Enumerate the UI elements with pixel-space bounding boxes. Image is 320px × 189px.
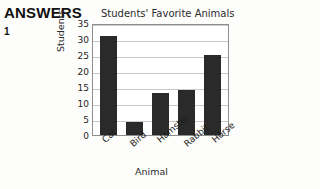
x-axis-label: Animal <box>135 166 168 177</box>
y-tick-5: 5 <box>83 116 89 125</box>
chart-title: Students' Favorite Animals <box>101 8 234 19</box>
y-tick-10: 10 <box>78 100 89 109</box>
y-tick-20: 20 <box>78 68 89 77</box>
y-tick-15: 15 <box>78 84 89 93</box>
y-tick-0: 0 <box>83 132 89 141</box>
y-tick-30: 30 <box>78 36 89 45</box>
bar-horse <box>204 55 221 135</box>
y-axis-tick-labels: 05101520253035 <box>69 24 89 136</box>
plot-area <box>92 24 229 136</box>
y-tick-35: 35 <box>78 20 89 29</box>
bar-chart: Students' Favorite Animals Students 0510… <box>57 6 245 189</box>
bar-cat <box>100 36 117 135</box>
bar-series <box>93 25 228 135</box>
y-tick-25: 25 <box>78 52 89 61</box>
y-axis-label: Students <box>55 10 66 52</box>
